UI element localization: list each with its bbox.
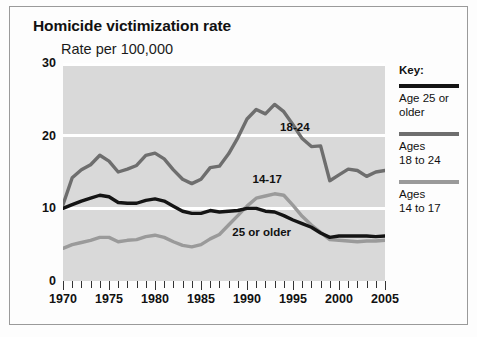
- x-tick-mark: [385, 281, 386, 290]
- y-tick-label: 0: [30, 274, 56, 288]
- x-tick-mark: [192, 281, 193, 288]
- legend-color-swatch: [399, 180, 459, 184]
- plot-area: [63, 63, 385, 281]
- series-line: [63, 194, 385, 249]
- x-tick-mark: [81, 281, 82, 288]
- x-tick-mark: [127, 281, 128, 288]
- chart-legend: Key: Age 25 orolderAges18 to 24Ages14 to…: [399, 64, 465, 228]
- legend-entry-label: Ages14 to 17: [399, 188, 465, 215]
- x-axis-ticks: [63, 281, 385, 290]
- x-tick-mark: [63, 281, 64, 290]
- x-tick-mark: [183, 281, 184, 288]
- x-tick-mark: [311, 281, 312, 288]
- legend-color-swatch: [399, 84, 459, 88]
- x-tick-mark: [357, 281, 358, 288]
- y-tick-label: 10: [30, 201, 56, 215]
- x-tick-mark: [238, 281, 239, 288]
- x-tick-mark: [91, 281, 92, 288]
- x-tick-mark: [367, 281, 368, 288]
- chart-subtitle: Rate per 100,000: [61, 41, 173, 57]
- x-tick-label: 1985: [187, 292, 215, 306]
- x-tick-mark: [339, 281, 340, 290]
- series-annotation-label: 25 or older: [232, 226, 291, 238]
- series-annotation-label: 14-17: [253, 173, 282, 185]
- legend-entry-label: Age 25 orolder: [399, 92, 465, 119]
- x-tick-mark: [210, 281, 211, 288]
- x-tick-mark: [155, 281, 156, 290]
- x-tick-label: 1995: [279, 292, 307, 306]
- x-tick-mark: [265, 281, 266, 288]
- x-tick-mark: [219, 281, 220, 288]
- x-tick-mark: [72, 281, 73, 288]
- x-tick-mark: [201, 281, 202, 290]
- x-tick-mark: [164, 281, 165, 288]
- x-tick-mark: [302, 281, 303, 288]
- x-tick-label: 2005: [371, 292, 399, 306]
- series-line: [63, 104, 385, 204]
- x-tick-mark: [229, 281, 230, 288]
- series-lines: [63, 63, 385, 281]
- x-tick-label: 2000: [325, 292, 353, 306]
- x-tick-label: 1980: [141, 292, 169, 306]
- x-tick-mark: [321, 281, 322, 288]
- x-tick-mark: [100, 281, 101, 288]
- x-tick-mark: [247, 281, 248, 290]
- y-tick-label: 30: [30, 56, 56, 70]
- x-tick-mark: [284, 281, 285, 288]
- legend-entry: Age 25 orolder: [399, 84, 465, 119]
- series-annotation-label: 18-24: [280, 121, 309, 133]
- legend-color-swatch: [399, 132, 459, 136]
- x-tick-mark: [348, 281, 349, 288]
- y-tick-label: 20: [30, 129, 56, 143]
- x-tick-mark: [118, 281, 119, 288]
- chart-figure: Homicide victimization rate Rate per 100…: [0, 0, 477, 337]
- legend-entries: Age 25 orolderAges18 to 24Ages14 to 17: [399, 84, 465, 215]
- x-tick-mark: [173, 281, 174, 288]
- legend-entry: Ages18 to 24: [399, 132, 465, 167]
- x-tick-mark: [275, 281, 276, 288]
- legend-entry: Ages14 to 17: [399, 180, 465, 215]
- x-tick-label: 1970: [49, 292, 77, 306]
- legend-entry-label: Ages18 to 24: [399, 140, 465, 167]
- chart-title: Homicide victimization rate: [33, 17, 231, 35]
- x-tick-mark: [137, 281, 138, 288]
- x-tick-mark: [293, 281, 294, 290]
- x-tick-label: 1990: [233, 292, 261, 306]
- x-tick-mark: [146, 281, 147, 288]
- x-tick-label: 1975: [95, 292, 123, 306]
- x-tick-mark: [330, 281, 331, 288]
- legend-title: Key:: [399, 64, 465, 76]
- x-tick-mark: [256, 281, 257, 288]
- x-tick-mark: [109, 281, 110, 290]
- x-tick-mark: [376, 281, 377, 288]
